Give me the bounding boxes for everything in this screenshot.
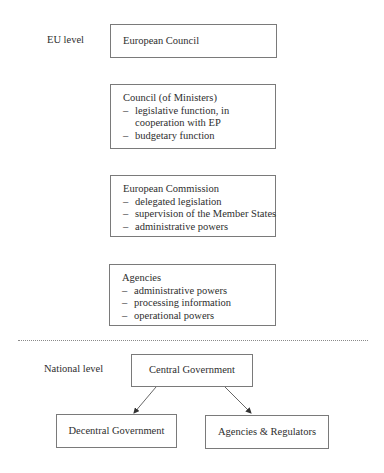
function-text: processing information — [134, 297, 231, 308]
arrow-to-decentral-government — [134, 387, 156, 413]
agencies-regulators-box: Agencies & Regulators — [205, 415, 329, 449]
bullet-dash: – — [123, 105, 128, 118]
function-item: – supervision of the Member States — [123, 208, 275, 221]
function-text: supervision of the Member States — [135, 208, 276, 219]
function-item: – administrative powers — [122, 285, 275, 298]
function-text: administrative powers — [134, 285, 227, 296]
european-council-box: European Council — [110, 24, 277, 58]
decentral-government-box: Decentral Government — [56, 414, 177, 448]
function-text: administrative powers — [135, 221, 228, 232]
national-level-label: National level — [44, 363, 103, 374]
european-commission-box: European Commission – delegated legislat… — [110, 175, 276, 237]
function-text: budgetary function — [135, 130, 215, 141]
bullet-dash: – — [122, 310, 127, 323]
decentral-government-title: Decentral Government — [69, 425, 165, 438]
central-government-box: Central Government — [131, 354, 253, 387]
function-item: – budgetary function — [123, 130, 275, 143]
function-text: operational powers — [134, 310, 214, 321]
eu-agencies-box: Agencies – administrative powers – proce… — [109, 264, 276, 326]
council-of-ministers-box: Council (of Ministers) – legislative fun… — [110, 84, 276, 149]
agencies-regulators-title: Agencies & Regulators — [218, 426, 316, 439]
bullet-dash: – — [122, 285, 127, 298]
european-commission-title: European Commission — [123, 183, 275, 196]
function-item: – processing information — [122, 297, 275, 310]
council-of-ministers-functions: – legislative function, in cooperation w… — [123, 105, 275, 143]
european-commission-functions: – delegated legislation – supervision of… — [123, 196, 275, 234]
eu-agencies-title: Agencies — [122, 272, 275, 285]
eu-level-label: EU level — [47, 34, 84, 45]
function-text: delegated legislation — [135, 196, 222, 207]
bullet-dash: – — [123, 221, 128, 234]
bullet-dash: – — [122, 297, 127, 310]
arrow-to-agencies-regulators — [225, 387, 251, 413]
function-item-continuation: cooperation with EP — [123, 117, 275, 130]
european-council-title: European Council — [123, 35, 199, 48]
eu-agencies-functions: – administrative powers – processing inf… — [122, 285, 275, 323]
central-government-title: Central Government — [149, 364, 235, 377]
bullet-dash: – — [123, 196, 128, 209]
council-of-ministers-title: Council (of Ministers) — [123, 92, 275, 105]
function-item: – administrative powers — [123, 221, 275, 234]
bullet-dash: – — [123, 208, 128, 221]
function-item: – delegated legislation — [123, 196, 275, 209]
function-text: cooperation with EP — [135, 117, 221, 128]
bullet-dash: – — [123, 130, 128, 143]
function-item: – operational powers — [122, 310, 275, 323]
function-item: – legislative function, in — [123, 105, 275, 118]
function-text: legislative function, in — [135, 105, 229, 116]
level-divider — [18, 340, 368, 341]
